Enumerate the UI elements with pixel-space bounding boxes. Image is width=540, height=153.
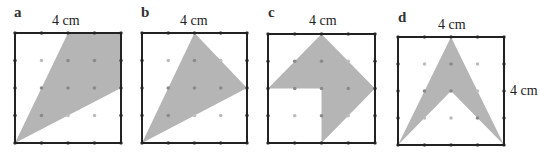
top-dimension-label: 4 cm xyxy=(52,13,80,29)
panel-letter: a xyxy=(14,4,22,21)
grid-dot xyxy=(66,86,70,90)
grid-dot xyxy=(93,114,97,118)
grid-square xyxy=(15,33,121,143)
grid-dot xyxy=(346,59,350,63)
grid-dot xyxy=(320,59,324,63)
grid-dot xyxy=(40,86,44,90)
grid-dot xyxy=(193,114,197,118)
grid-dot xyxy=(193,86,197,90)
grid-dot xyxy=(320,87,324,91)
grid-dot xyxy=(320,114,324,118)
grid-dot xyxy=(423,89,427,93)
grid-square xyxy=(268,34,375,143)
panel-letter: c xyxy=(268,4,275,21)
grid-dot xyxy=(423,116,427,120)
grid-dot xyxy=(423,62,427,66)
grid-dot xyxy=(346,114,350,118)
grid-dot xyxy=(40,114,44,118)
grid-dot xyxy=(219,114,223,118)
grid-dot xyxy=(166,114,170,118)
side-dimension-label: 4 cm xyxy=(510,83,538,99)
panel-letter: b xyxy=(141,4,149,21)
grid-dot xyxy=(193,59,197,63)
grid-dot xyxy=(166,59,170,63)
grid-dot xyxy=(293,87,297,91)
grid-square xyxy=(398,37,504,145)
grid-dot xyxy=(293,114,297,118)
grid-dot xyxy=(346,87,350,91)
grid-dot xyxy=(93,59,97,63)
grid-dot xyxy=(40,59,44,63)
panel-letter: d xyxy=(398,9,406,26)
grid-dot xyxy=(93,86,97,90)
grid-dot xyxy=(476,116,480,120)
grid-dot xyxy=(476,62,480,66)
grid-dot xyxy=(293,59,297,63)
grid-dot xyxy=(219,86,223,90)
grid-dot xyxy=(66,59,70,63)
top-dimension-label: 4 cm xyxy=(438,17,466,33)
grid-dot xyxy=(66,114,70,118)
grid-dot xyxy=(476,89,480,93)
top-dimension-label: 4 cm xyxy=(309,13,337,29)
grid-dot xyxy=(219,59,223,63)
grid-dot xyxy=(166,86,170,90)
top-dimension-label: 4 cm xyxy=(180,13,208,29)
grid-dot xyxy=(449,116,453,120)
grid-dot xyxy=(449,89,453,93)
grid-square xyxy=(142,33,247,143)
grid-dot xyxy=(449,62,453,66)
